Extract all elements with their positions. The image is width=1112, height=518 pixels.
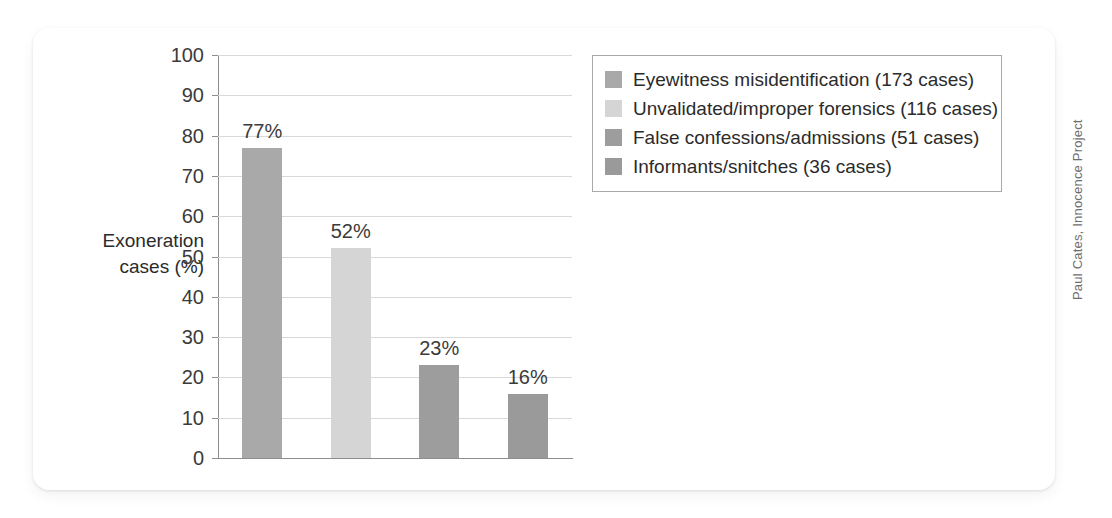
y-axis-tick <box>212 55 218 56</box>
legend-item: Eyewitness misidentification (173 cases) <box>605 65 991 94</box>
y-axis-tick <box>212 337 218 338</box>
y-axis-tick-label: 90 <box>122 85 204 105</box>
y-axis-tick-label: 10 <box>122 408 204 428</box>
gridline <box>218 95 572 96</box>
bar <box>508 394 548 458</box>
legend-swatch <box>605 71 622 88</box>
legend-swatch <box>605 158 622 175</box>
y-axis-tick <box>212 458 218 459</box>
bar <box>331 248 371 458</box>
bar <box>242 148 282 458</box>
y-axis-tick <box>212 95 218 96</box>
legend-label: Unvalidated/improper forensics (116 case… <box>633 99 998 118</box>
y-axis-tick-label: 40 <box>122 287 204 307</box>
y-axis-tick-labels: 1009080706050403020100 <box>122 0 204 518</box>
y-axis-tick-label: 70 <box>122 166 204 186</box>
y-axis-tick <box>212 176 218 177</box>
y-axis-tick <box>212 257 218 258</box>
legend-item: False confessions/admissions (51 cases) <box>605 123 991 152</box>
legend-label: Informants/snitches (36 cases) <box>633 157 892 176</box>
bar <box>419 365 459 458</box>
legend-swatch <box>605 129 622 146</box>
y-axis-tick-label: 20 <box>122 367 204 387</box>
x-axis-line <box>218 458 573 459</box>
legend-swatch <box>605 100 622 117</box>
plot-area: 77%52%23%16% <box>218 55 572 458</box>
gridline <box>218 55 572 56</box>
y-axis-tick-label: 50 <box>122 247 204 267</box>
y-axis-tick-label: 30 <box>122 327 204 347</box>
bar-value-label: 77% <box>212 121 312 141</box>
legend-item: Unvalidated/improper forensics (116 case… <box>605 94 991 123</box>
y-axis-tick <box>212 216 218 217</box>
legend-label: Eyewitness misidentification (173 cases) <box>633 70 974 89</box>
y-axis-tick-label: 60 <box>122 206 204 226</box>
bar-value-label: 23% <box>389 338 489 358</box>
y-axis-tick-label: 100 <box>122 45 204 65</box>
y-axis-tick <box>212 136 218 137</box>
image-credit: Paul Cates, Innocence Project <box>1070 119 1085 300</box>
chart-legend: Eyewitness misidentification (173 cases)… <box>592 55 1002 192</box>
y-axis-tick-label: 0 <box>122 448 204 468</box>
y-axis-tick <box>212 418 218 419</box>
bar-value-label: 52% <box>301 221 401 241</box>
y-axis-tick <box>212 377 218 378</box>
legend-item: Informants/snitches (36 cases) <box>605 152 991 181</box>
bar-value-label: 16% <box>478 367 578 387</box>
y-axis-tick <box>212 297 218 298</box>
y-axis-tick-label: 80 <box>122 126 204 146</box>
legend-label: False confessions/admissions (51 cases) <box>633 128 979 147</box>
